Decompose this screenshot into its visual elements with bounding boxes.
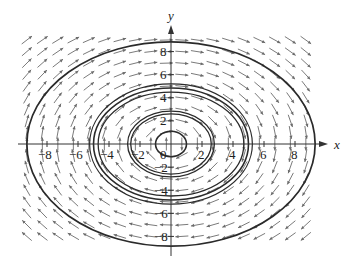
x-tick-label: 8: [291, 147, 298, 162]
slope-arrow: [40, 104, 46, 116]
slope-arrow: [38, 81, 46, 91]
slope-arrow: [271, 185, 279, 195]
slope-arrow: [83, 234, 95, 240]
slope-arrow: [225, 162, 233, 173]
slope-arrow: [23, 70, 32, 80]
slope-arrow: [223, 94, 234, 101]
slope-arrow: [98, 60, 110, 66]
slope-arrow: [222, 61, 234, 66]
slope-arrow: [239, 198, 250, 205]
slope-arrow: [129, 84, 141, 89]
slope-arrow: [256, 104, 263, 115]
slope-arrow: [302, 92, 309, 103]
slope-arrow: [274, 126, 277, 139]
y-tick-label: −2: [154, 160, 168, 175]
slope-arrow: [270, 197, 279, 206]
slope-arrow: [99, 83, 110, 90]
slope-arrow: [85, 104, 93, 114]
slope-arrow: [114, 72, 126, 77]
x-tick-label: 6: [260, 147, 267, 162]
slope-arrow: [116, 162, 124, 172]
y-tick-label: −4: [154, 183, 168, 198]
slope-arrow: [254, 198, 264, 206]
slope-arrow: [301, 36, 312, 44]
slope-arrow: [285, 233, 296, 241]
slope-arrow: [68, 48, 79, 55]
slope-arrow: [130, 106, 141, 112]
slope-arrow: [37, 36, 48, 43]
slope-arrow: [304, 115, 308, 127]
slope-arrow: [191, 73, 204, 77]
x-tick-label: −8: [38, 147, 52, 162]
x-tick-label: 4: [229, 147, 236, 162]
slope-arrow: [175, 50, 188, 53]
slope-arrow: [70, 104, 77, 115]
slope-arrow: [207, 211, 219, 216]
slope-arrow: [238, 71, 249, 78]
y-tick-label: −8: [154, 229, 168, 244]
slope-arrow: [272, 115, 277, 127]
slope-arrow: [55, 173, 61, 184]
slope-arrow: [68, 233, 79, 240]
slope-arrow: [69, 197, 78, 206]
slope-arrow: [258, 126, 262, 139]
slope-arrow: [253, 37, 265, 43]
slope-arrow: [207, 199, 219, 204]
slope-arrow: [117, 150, 122, 162]
slope-arrow: [114, 83, 126, 89]
slope-arrow: [144, 73, 157, 76]
slope-arrow: [273, 149, 276, 162]
slope-arrow: [22, 59, 31, 68]
slope-arrow: [69, 185, 77, 195]
slope-arrow: [55, 161, 60, 173]
slope-arrow: [301, 232, 311, 240]
slope-arrow: [256, 173, 263, 184]
slope-arrow: [39, 173, 45, 185]
slope-arrow: [305, 126, 308, 139]
y-tick-label: 4: [160, 90, 167, 105]
slope-arrow: [24, 185, 30, 196]
slope-arrow: [207, 50, 220, 54]
slope-arrow: [225, 116, 233, 127]
slope-arrow: [238, 38, 250, 43]
slope-arrow: [37, 59, 47, 68]
slope-arrow: [68, 37, 80, 43]
slope-arrow: [175, 223, 188, 226]
slope-arrow: [208, 116, 217, 125]
slope-arrow: [37, 221, 47, 230]
slope-arrow: [302, 81, 310, 91]
slope-arrow: [84, 198, 94, 206]
slope-arrow: [23, 81, 31, 92]
x-tick-label: −2: [131, 147, 145, 162]
slope-arrow: [54, 185, 62, 195]
slope-arrow: [22, 36, 32, 44]
slope-arrow: [270, 82, 279, 91]
slope-arrow: [98, 37, 110, 42]
slope-arrow: [207, 223, 219, 227]
slope-arrow: [24, 161, 28, 173]
slope-arrow: [72, 126, 76, 139]
x-tick-label: −6: [69, 147, 83, 162]
slope-arrow: [37, 48, 47, 56]
slope-arrow: [302, 197, 310, 207]
slope-arrow: [129, 223, 142, 227]
y-axis-label: y: [166, 8, 174, 23]
slope-arrow: [208, 162, 217, 171]
slope-arrow: [301, 209, 310, 219]
slope-arrow: [24, 103, 29, 115]
slope-arrow: [254, 210, 265, 218]
slope-arrow: [256, 161, 262, 173]
slope-arrow: [144, 223, 157, 226]
slope-arrow: [114, 222, 126, 227]
slope-arrow: [287, 185, 294, 196]
slope-arrow: [270, 221, 281, 229]
slope-arrow: [145, 95, 158, 99]
slope-arrow: [269, 37, 280, 43]
slope-arrow: [54, 93, 62, 103]
slope-arrow: [285, 221, 295, 229]
slope-arrow: [86, 115, 92, 127]
slope-arrow: [57, 126, 60, 139]
slope-arrow: [175, 212, 188, 215]
slope-arrow: [129, 61, 142, 65]
slope-arrow: [207, 39, 220, 43]
